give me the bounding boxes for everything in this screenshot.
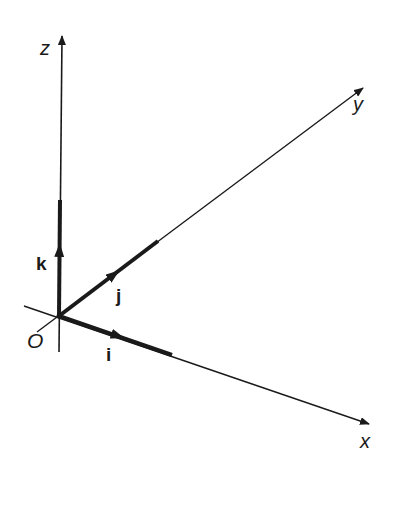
z-axis-label: z xyxy=(40,38,50,58)
x-axis-label: x xyxy=(360,431,370,451)
coordinate-axes-diagram xyxy=(0,0,406,506)
k-vector xyxy=(59,200,60,316)
k-vector-label: k xyxy=(36,254,47,273)
i-vector-label: i xyxy=(106,345,111,364)
origin-point xyxy=(57,314,62,319)
y-axis-label: y xyxy=(353,94,363,114)
origin-label: O xyxy=(27,330,43,351)
i-vector xyxy=(59,316,172,355)
j-vector xyxy=(59,241,158,316)
j-vector-label: j xyxy=(116,286,121,305)
